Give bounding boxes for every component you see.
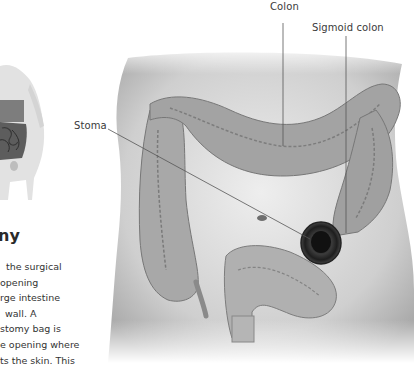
body-line: wall. A: [0, 306, 79, 322]
article-heading: ny: [0, 226, 20, 245]
stoma-label: Stoma: [74, 120, 107, 131]
sigmoid-colon-label: Sigmoid colon: [312, 22, 384, 33]
body-line: e opening where: [0, 337, 79, 353]
body-line: rge intestine: [0, 290, 79, 306]
body-line: the surgical: [0, 259, 79, 275]
body-line: stomy bag is: [0, 321, 79, 337]
body-line: ts the skin. This: [0, 353, 79, 368]
body-thumbnail: [0, 65, 44, 200]
body-line: opening: [0, 275, 79, 291]
article-body: the surgical opening rge intestine wall.…: [0, 259, 79, 368]
colon-label: Colon: [270, 1, 299, 12]
stoma-illustration: [301, 222, 341, 264]
